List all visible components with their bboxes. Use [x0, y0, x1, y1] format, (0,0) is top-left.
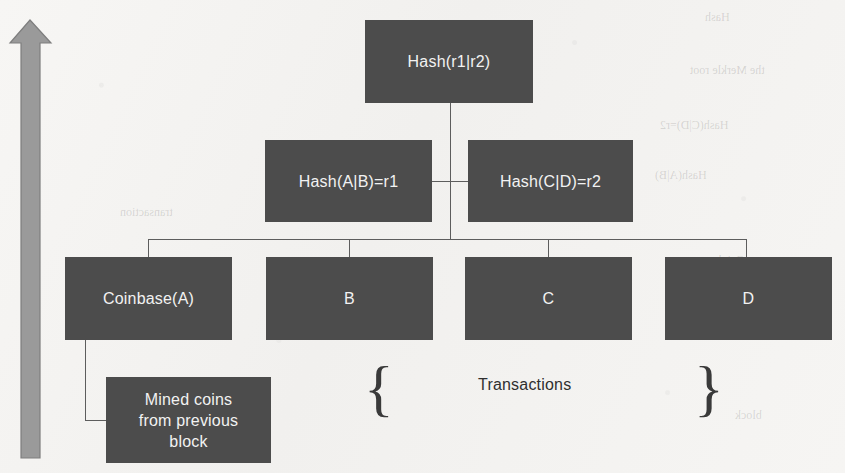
connector-drop-d	[746, 239, 747, 258]
node-hash-cd-label: Hash(C|D)=r2	[468, 171, 633, 192]
node-hash-ab[interactable]: Hash(A|B)=r1	[265, 140, 432, 222]
node-root-hash[interactable]: Hash(r1|r2)	[365, 20, 533, 103]
figure-canvas: Hash the Merkle root Hash(C|D)=r2 Hash(A…	[0, 0, 845, 473]
node-leaf-coinbase[interactable]: Coinbase(A)	[65, 257, 232, 340]
node-mined-coins-line1: Mined coins	[102, 389, 275, 410]
node-mined-coins-line3: block	[102, 431, 275, 452]
brace-right: }	[694, 357, 724, 419]
connector-drop-coinbase	[148, 239, 149, 258]
connector-level2-to-leaves-vertical	[450, 181, 451, 240]
node-leaf-b[interactable]: B	[266, 257, 433, 340]
node-mined-coins-note[interactable]: Mined coins from previous block	[106, 377, 271, 463]
node-leaf-c-label: C	[465, 288, 632, 309]
transactions-label: Transactions	[478, 376, 571, 394]
node-root-hash-label: Hash(r1|r2)	[365, 51, 533, 72]
node-hash-cd[interactable]: Hash(C|D)=r2	[468, 140, 633, 222]
connector-coinbase-to-note-vertical	[85, 340, 86, 420]
ghost-text: block	[735, 408, 762, 423]
node-leaf-coinbase-label: Coinbase(A)	[65, 288, 232, 309]
node-leaf-b-label: B	[266, 288, 433, 309]
connector-drop-c	[548, 239, 549, 258]
node-leaf-d[interactable]: D	[665, 257, 832, 340]
connector-root-to-level2-vertical	[450, 103, 451, 182]
brace-left: {	[364, 357, 394, 419]
time-direction-arrow	[2, 18, 58, 470]
ghost-text: the Merkle root	[690, 63, 765, 78]
connector-drop-b	[349, 239, 350, 258]
ghost-text: transaction	[120, 205, 173, 220]
node-leaf-d-label: D	[665, 288, 832, 309]
ghost-text: Hash	[705, 10, 730, 25]
node-leaf-c[interactable]: C	[465, 257, 632, 340]
ghost-text: Hash(A|B)	[655, 168, 707, 183]
node-hash-ab-label: Hash(A|B)=r1	[265, 171, 432, 192]
connector-leaves-bus	[148, 239, 746, 240]
ghost-text: Hash(C|D)=r2	[660, 118, 729, 133]
node-mined-coins-line2: from previous	[102, 410, 275, 431]
